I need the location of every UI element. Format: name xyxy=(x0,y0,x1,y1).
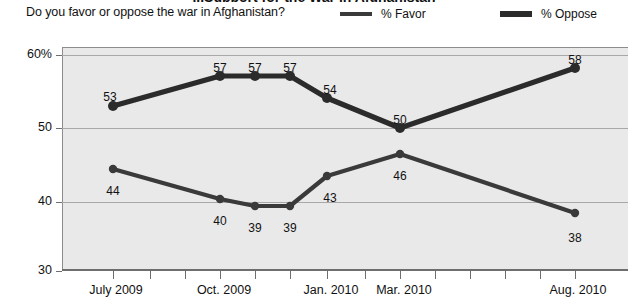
value-label-favor-2: 39 xyxy=(248,221,261,235)
value-label-oppose-1: 57 xyxy=(213,61,226,75)
data-point-favor-2 xyxy=(251,202,259,210)
value-label-oppose-5: 50 xyxy=(393,113,406,127)
data-point-favor-1 xyxy=(216,195,224,203)
value-label-favor-0: 44 xyxy=(106,184,119,198)
value-label-oppose-2: 57 xyxy=(248,61,261,75)
series-line-oppose xyxy=(113,68,575,128)
data-point-favor-0 xyxy=(109,165,117,173)
data-point-favor-5 xyxy=(396,150,404,158)
series-line-favor xyxy=(113,154,575,213)
data-point-favor-6 xyxy=(571,209,579,217)
value-label-favor-5: 46 xyxy=(393,169,406,183)
value-label-favor-3: 39 xyxy=(283,221,296,235)
value-label-oppose-6: 58 xyxy=(568,53,581,67)
value-label-oppose-0: 53 xyxy=(103,90,116,104)
value-label-favor-6: 38 xyxy=(568,231,581,245)
series-layer xyxy=(0,0,628,306)
value-label-oppose-3: 57 xyxy=(283,61,296,75)
data-point-favor-4 xyxy=(323,172,331,180)
value-label-favor-4: 43 xyxy=(323,191,336,205)
data-point-favor-3 xyxy=(286,202,294,210)
value-label-favor-1: 40 xyxy=(213,214,226,228)
value-label-oppose-4: 54 xyxy=(323,83,336,97)
